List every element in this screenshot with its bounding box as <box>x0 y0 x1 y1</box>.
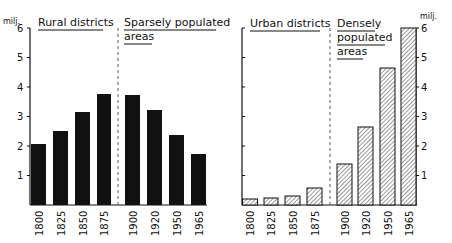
bar-rural-1825 <box>53 131 68 205</box>
right-year-1965: 1965 <box>404 211 415 236</box>
bar-urban-1800 <box>243 199 258 205</box>
left-year-1900: 1900 <box>128 211 139 236</box>
bar-dense-1950 <box>380 68 395 205</box>
right-year-1920: 1920 <box>361 211 372 236</box>
left-year-1920: 1920 <box>150 211 161 236</box>
left-year-1965: 1965 <box>194 211 205 236</box>
right-chart: 1 2 3 4 5 6 milj. Urban districts Densel… <box>242 12 437 236</box>
bar-dense-1920 <box>358 127 373 205</box>
bar-sparse-1965 <box>191 154 206 205</box>
left-y-ticks: 1 2 3 4 5 6 <box>17 23 30 181</box>
right-label-dense-2: populated <box>337 31 393 44</box>
right-year-1825: 1825 <box>266 211 277 236</box>
bar-rural-1800 <box>31 144 46 205</box>
left-year-1800: 1800 <box>34 211 45 236</box>
left-tick-1: 1 <box>17 170 23 181</box>
right-bars <box>243 28 417 205</box>
left-year-1950: 1950 <box>172 211 183 236</box>
right-tick-4: 4 <box>421 82 427 93</box>
right-label-dense-3: areas <box>337 45 368 58</box>
population-charts: milj. 1 2 3 4 5 6 Rural districts Sparse… <box>0 0 452 243</box>
left-label-sparse-2: areas <box>124 30 155 43</box>
right-year-1800: 1800 <box>245 211 256 236</box>
right-year-1875: 1875 <box>310 211 321 236</box>
left-x-labels: 1800 1825 1850 1875 1900 1920 1950 1965 <box>34 211 205 236</box>
left-label-rural: Rural districts <box>38 16 114 29</box>
left-chart: milj. 1 2 3 4 5 6 Rural districts Sparse… <box>3 16 230 236</box>
bar-urban-1850 <box>285 196 300 205</box>
bar-urban-1875 <box>307 188 322 205</box>
right-year-1850: 1850 <box>288 211 299 236</box>
left-label-sparse-1: Sparsely populated <box>124 16 230 29</box>
bar-urban-1825 <box>264 198 278 205</box>
left-tick-4: 4 <box>17 82 23 93</box>
left-tick-3: 3 <box>17 111 23 122</box>
left-tick-6: 6 <box>17 23 23 34</box>
right-label-dense-1: Densely <box>337 17 382 30</box>
left-tick-5: 5 <box>17 52 23 63</box>
bar-sparse-1900 <box>125 95 140 205</box>
bar-dense-1965 <box>401 28 416 205</box>
right-year-1900: 1900 <box>340 211 351 236</box>
bar-dense-1900 <box>337 164 352 205</box>
right-tick-2: 2 <box>421 141 427 152</box>
right-tick-5: 5 <box>421 52 427 63</box>
right-tick-1: 1 <box>421 170 427 181</box>
right-label-urban: Urban districts <box>250 17 331 30</box>
right-tick-3: 3 <box>421 111 427 122</box>
left-bars <box>31 94 206 205</box>
bar-rural-1850 <box>75 112 90 205</box>
left-year-1875: 1875 <box>99 211 110 236</box>
right-tick-6: 6 <box>421 23 427 34</box>
right-y-ticks: 1 2 3 4 5 6 <box>416 23 427 181</box>
right-year-1950: 1950 <box>383 211 394 236</box>
bar-rural-1875 <box>97 94 111 205</box>
right-unit-label: milj. <box>420 12 437 21</box>
bar-sparse-1920 <box>147 110 162 205</box>
bar-sparse-1950 <box>169 135 184 205</box>
left-tick-2: 2 <box>17 141 23 152</box>
right-x-labels: 1800 1825 1850 1875 1900 1920 1950 1965 <box>245 211 415 236</box>
left-year-1825: 1825 <box>56 211 67 236</box>
left-year-1850: 1850 <box>78 211 89 236</box>
